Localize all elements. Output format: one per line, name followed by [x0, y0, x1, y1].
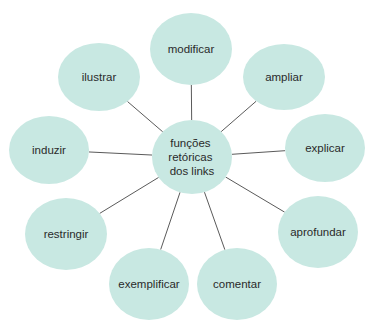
node-ilustrar: ilustrar — [58, 43, 140, 111]
connector-aprofundar — [226, 177, 285, 212]
node-ampliar: ampliar — [243, 44, 325, 110]
node-label: explicar — [305, 142, 345, 154]
node-explicar: explicar — [285, 114, 365, 182]
center-label-line-1: funções — [170, 137, 211, 149]
node-label: comentar — [213, 278, 261, 290]
connector-ilustrar — [127, 101, 162, 131]
connector-explicar — [232, 151, 285, 155]
node-induzir: induzir — [9, 116, 89, 184]
center-label-line-2: retóricas — [168, 151, 212, 163]
node-label: ilustrar — [82, 71, 117, 83]
connector-restringir — [100, 177, 159, 213]
connector-induzir — [89, 152, 152, 155]
node-exemplificar: exemplificar — [109, 248, 189, 320]
connector-comentar — [204, 192, 224, 250]
node-aprofundar: aprofundar — [278, 196, 358, 268]
node-label: ampliar — [265, 71, 303, 83]
connector-exemplificar — [161, 192, 180, 249]
node-label: exemplificar — [118, 278, 180, 290]
node-label: restringir — [44, 228, 89, 240]
node-modificar: modificar — [150, 13, 232, 85]
node-label: aprofundar — [290, 226, 346, 238]
node-label: modificar — [168, 43, 215, 55]
node-label: induzir — [32, 144, 66, 156]
connector-ampliar — [221, 101, 256, 131]
center-label-line-3: dos links — [170, 165, 215, 177]
node-restringir: restringir — [25, 198, 107, 270]
rhetorical-functions-diagram: modificarampliarexplicaraprofundarcoment… — [0, 0, 381, 328]
center-label: funções retóricas dos links — [168, 137, 215, 177]
node-comentar: comentar — [197, 248, 277, 320]
center-node: funções retóricas dos links — [152, 120, 232, 194]
